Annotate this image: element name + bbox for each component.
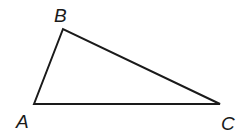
triangle-diagram: A B C: [0, 0, 241, 136]
vertex-label-a: A: [15, 111, 29, 132]
vertex-label-c: C: [221, 113, 235, 134]
triangle-abc: [34, 29, 220, 104]
vertex-label-b: B: [54, 5, 67, 26]
